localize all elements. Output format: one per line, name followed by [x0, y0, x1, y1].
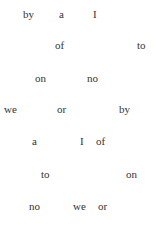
word: a: [59, 9, 64, 20]
word: to: [137, 40, 146, 51]
word: we: [73, 201, 86, 212]
word: of: [55, 40, 64, 51]
word: no: [29, 201, 40, 212]
word: a: [32, 136, 37, 147]
word: on: [126, 169, 137, 180]
word: on: [35, 73, 46, 84]
word: or: [57, 104, 66, 115]
word: I: [80, 136, 84, 147]
word: I: [93, 9, 97, 20]
word: no: [87, 73, 98, 84]
word: or: [98, 201, 107, 212]
word: of: [96, 136, 105, 147]
word: by: [23, 9, 34, 20]
word: we: [4, 104, 17, 115]
word: to: [41, 169, 50, 180]
word: by: [119, 104, 130, 115]
